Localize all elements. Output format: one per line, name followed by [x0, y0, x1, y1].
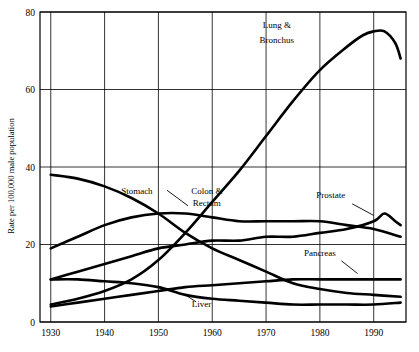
series-line: [51, 214, 401, 280]
leader-line: [352, 204, 374, 216]
annotation-labels: Lung &BronchusStomachColon &RectumProsta…: [121, 20, 345, 309]
plot-area: 0204060801930194019501960197019801990 Lu…: [0, 0, 419, 352]
series-annotation: Rectum: [193, 198, 221, 208]
leader-line: [341, 261, 357, 274]
x-tick-label: 1950: [149, 328, 168, 338]
series-annotation: Colon &: [191, 186, 222, 196]
series-annotation: Stomach: [121, 186, 153, 196]
series-annotation: Prostate: [316, 190, 345, 200]
cancer-death-rate-chart: Rate per 100,000 male population 0204060…: [0, 0, 419, 352]
y-tick-label: 40: [26, 163, 36, 173]
x-tick-label: 1940: [95, 328, 114, 338]
y-tick-label: 20: [26, 240, 36, 250]
series-annotation: Pancreas: [304, 248, 336, 258]
x-tick-label: 1970: [257, 328, 276, 338]
tick-labels: 0204060801930194019501960197019801990: [26, 8, 384, 339]
x-tick-label: 1980: [310, 328, 329, 338]
series-annotation: Liver: [192, 299, 212, 309]
y-tick-label: 0: [30, 318, 35, 328]
y-tick-label: 80: [26, 8, 36, 18]
series-annotation: Bronchus: [260, 35, 295, 45]
leader-line: [167, 190, 188, 206]
series-line: [51, 213, 401, 248]
x-tick-label: 1930: [41, 328, 60, 338]
x-tick-label: 1990: [364, 328, 383, 338]
series-annotation: Lung &: [263, 20, 291, 30]
x-tick-label: 1960: [203, 328, 222, 338]
y-tick-label: 60: [26, 85, 36, 95]
series-layer: [51, 30, 401, 306]
gridlines: [40, 12, 406, 322]
